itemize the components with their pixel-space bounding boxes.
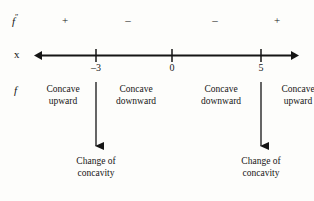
- concavity-region-4: Concave upward: [265, 84, 314, 107]
- concavity-region-1: Concave upward: [30, 84, 96, 107]
- change-of-concavity-right: Change of concavity: [221, 156, 301, 179]
- concavity-region-4-line2: upward: [265, 96, 314, 108]
- function-row-label: f: [14, 84, 17, 96]
- concavity-region-3: Concave downward: [188, 84, 254, 107]
- concavity-region-1-line1: Concave: [46, 84, 79, 94]
- change-of-concavity-left: Change of concavity: [56, 156, 136, 179]
- tick-label-0: 0: [160, 62, 184, 73]
- concavity-region-2: Concave downward: [103, 84, 169, 107]
- change-of-concavity-left-line1: Change of: [76, 156, 115, 166]
- concavity-region-2-line1: Concave: [119, 84, 152, 94]
- concavity-region-4-line1: Concave: [281, 84, 314, 94]
- tick-label-5: 5: [249, 62, 273, 73]
- tick-label-minus-3: –3: [84, 62, 108, 73]
- concavity-region-2-line2: downward: [103, 96, 169, 108]
- change-of-concavity-left-line2: concavity: [56, 168, 136, 180]
- change-of-concavity-right-line2: concavity: [221, 168, 301, 180]
- concavity-region-1-line2: upward: [30, 96, 96, 108]
- concavity-sign-chart: f″ + – – + x –3 0 5: [0, 0, 314, 201]
- concavity-region-3-line1: Concave: [204, 84, 237, 94]
- concavity-region-3-line2: downward: [188, 96, 254, 108]
- change-of-concavity-right-line1: Change of: [241, 156, 280, 166]
